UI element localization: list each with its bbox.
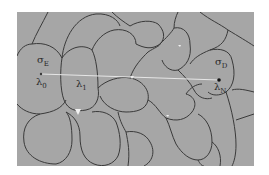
lambda-subscript: 0	[42, 82, 46, 90]
lambda-subscript: N	[220, 87, 226, 95]
label-lambda-0: λ0	[36, 77, 47, 90]
lambda-0-point	[40, 73, 42, 75]
lambda-subscript: 1	[82, 84, 86, 92]
sigma-symbol: σ	[215, 56, 222, 67]
label-sigma-d: σD	[215, 57, 227, 70]
label-sigma-e: σE	[37, 55, 49, 68]
void-gaps	[75, 45, 181, 117]
label-lambda-1: λ1	[76, 79, 87, 92]
label-lambda-n: λN	[214, 82, 226, 95]
path-line	[41, 74, 219, 80]
sigma-subscript: D	[222, 62, 228, 70]
sigma-subscript: E	[44, 60, 49, 68]
sigma-symbol: σ	[37, 54, 44, 65]
